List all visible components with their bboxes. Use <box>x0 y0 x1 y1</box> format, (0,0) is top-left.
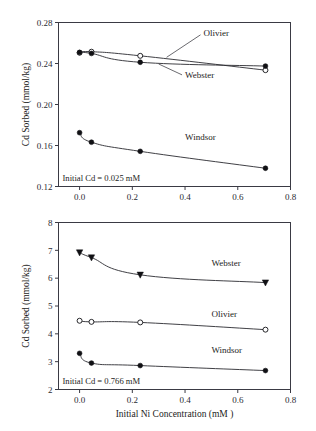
data-point-top-windsor-0 <box>77 130 82 135</box>
series-line-top-windsor <box>80 133 266 169</box>
y-tick-label-bottom-6: 8 <box>48 218 53 228</box>
y-tick-label-top-1: 0.16 <box>37 141 53 151</box>
data-point-top-windsor-2 <box>138 149 143 154</box>
y-tick-label-bottom-5: 7 <box>48 246 53 256</box>
data-point-top-webster-0 <box>77 50 82 55</box>
data-point-top-windsor-1 <box>89 140 94 145</box>
x-tick-label-bottom-1: 0.2 <box>127 395 138 405</box>
x-tick-label-bottom-4: 0.8 <box>285 395 297 405</box>
x-tick-label-top-1: 0.2 <box>127 192 138 202</box>
y-tick-label-bottom-3: 5 <box>48 301 53 311</box>
series-label-bottom-windsor: Windsor <box>211 345 242 355</box>
y-tick-label-bottom-4: 6 <box>48 273 53 283</box>
leader-line-top-webster <box>159 64 182 75</box>
data-point-top-windsor-3 <box>263 166 268 171</box>
data-point-bottom-windsor-3 <box>263 368 268 373</box>
series-label-bottom-olivier: Olivier <box>211 309 237 319</box>
annotation-bottom: Initial Cd = 0.766 mM <box>63 376 141 386</box>
x-axis-title-bottom: Initial Ni Concentration (mM ) <box>116 409 234 420</box>
x-tick-label-bottom-0: 0.0 <box>74 395 86 405</box>
y-axis-title-bottom: Cd Sorbed (mmol/kg) <box>21 264 32 347</box>
y-tick-label-bottom-1: 3 <box>48 357 53 367</box>
data-point-bottom-windsor-0 <box>77 351 82 356</box>
series-label-top-windsor: Windsor <box>185 132 216 142</box>
y-tick-label-top-0: 0.12 <box>37 182 53 192</box>
series-label-top-webster: Webster <box>185 70 214 80</box>
data-point-top-webster-2 <box>138 60 143 65</box>
series-line-bottom-windsor <box>80 353 266 370</box>
series-label-bottom-webster: Webster <box>211 258 240 268</box>
data-point-bottom-webster-1 <box>88 255 94 261</box>
x-tick-label-bottom-2: 0.4 <box>179 395 191 405</box>
data-point-bottom-olivier-1 <box>89 319 94 324</box>
data-point-bottom-windsor-1 <box>89 361 94 366</box>
series-label-top-olivier: Olivier <box>204 28 230 38</box>
data-point-bottom-olivier-2 <box>138 320 143 325</box>
chart-svg: 0.120.160.200.240.280.00.20.40.60.8Cd So… <box>0 0 316 431</box>
data-point-top-webster-3 <box>263 64 268 69</box>
y-tick-label-top-3: 0.24 <box>37 59 53 69</box>
y-tick-label-bottom-0: 2 <box>48 385 53 395</box>
annotation-top: Initial Cd = 0.025 mM <box>63 173 141 183</box>
data-point-top-webster-1 <box>89 51 94 56</box>
x-tick-label-bottom-3: 0.6 <box>232 395 244 405</box>
figure-container: 0.120.160.200.240.280.00.20.40.60.8Cd So… <box>0 0 316 431</box>
plot-frame-top <box>59 23 291 187</box>
x-tick-label-top-4: 0.8 <box>285 192 297 202</box>
data-point-bottom-olivier-0 <box>77 318 82 323</box>
data-point-bottom-windsor-2 <box>138 363 143 368</box>
data-point-bottom-webster-0 <box>76 250 82 256</box>
x-tick-label-top-2: 0.4 <box>179 192 191 202</box>
leader-line-top-olivier <box>167 35 201 57</box>
data-point-top-olivier-2 <box>138 53 143 58</box>
y-tick-label-top-2: 0.20 <box>37 100 53 110</box>
series-line-bottom-olivier <box>80 321 266 330</box>
y-tick-label-bottom-2: 4 <box>48 329 53 339</box>
data-point-bottom-olivier-3 <box>263 327 268 332</box>
y-axis-title-top: Cd Sorbed (mmol/kg) <box>21 63 32 146</box>
x-tick-label-top-0: 0.0 <box>74 192 86 202</box>
series-line-top-olivier <box>80 52 266 71</box>
x-tick-label-top-3: 0.6 <box>232 192 244 202</box>
y-tick-label-top-4: 0.28 <box>37 18 53 28</box>
